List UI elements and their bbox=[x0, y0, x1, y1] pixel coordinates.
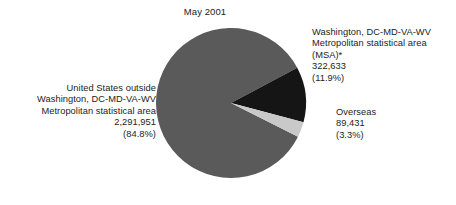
slice-label-us-outside: United States outside Washington, DC-MD-… bbox=[0, 83, 156, 140]
slice-label-us-outside-line1: United States outside bbox=[0, 83, 156, 94]
slice-label-overseas-percent: (3.3%) bbox=[336, 130, 454, 141]
slice-label-washington-msa-line2: Metropolitan statistical area bbox=[312, 38, 456, 49]
slice-label-washington-msa-line3: (MSA)* bbox=[312, 50, 456, 61]
slice-label-washington-msa-line1: Washington, DC-MD-VA-WV bbox=[312, 27, 456, 38]
slice-label-us-outside-value: 2,291,951 bbox=[0, 117, 156, 128]
slice-label-washington-msa-value: 322,633 bbox=[312, 61, 456, 72]
slice-label-washington-msa: Washington, DC-MD-VA-WV Metropolitan sta… bbox=[312, 27, 456, 84]
slice-label-washington-msa-percent: (11.9%) bbox=[312, 73, 456, 84]
slice-label-us-outside-line2: Washington, DC-MD-VA-WV bbox=[0, 94, 156, 105]
slice-label-us-outside-percent: (84.8%) bbox=[0, 129, 156, 140]
slice-label-overseas-value: 89,431 bbox=[336, 118, 454, 129]
pie-chart-figure: May 2001 United States outside Washingto… bbox=[0, 0, 456, 205]
slice-label-us-outside-line3: Metropolitan statistical area bbox=[0, 106, 156, 117]
slice-label-overseas-line1: Overseas bbox=[336, 107, 454, 118]
slice-label-overseas: Overseas 89,431 (3.3%) bbox=[336, 107, 454, 141]
